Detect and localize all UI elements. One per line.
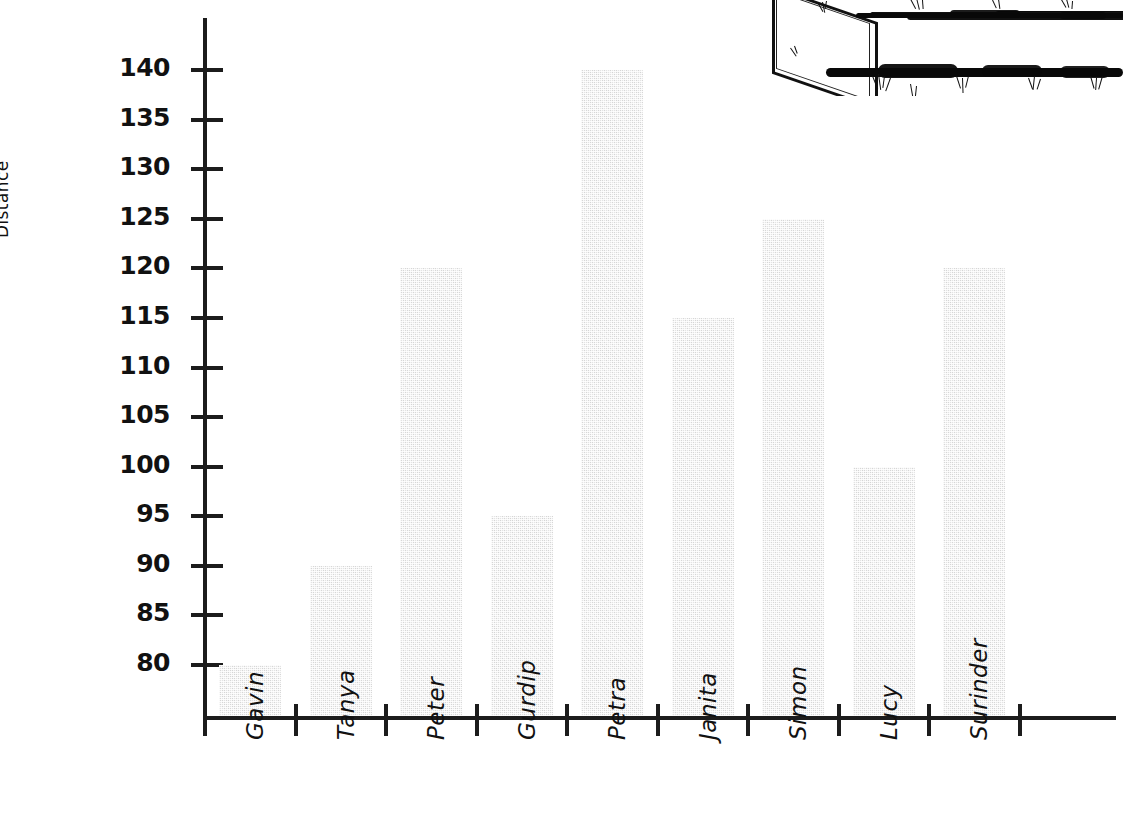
y-tick-label: 130 xyxy=(60,152,170,181)
y-tick-label: 95 xyxy=(60,499,170,528)
y-tick xyxy=(191,415,223,419)
y-tick-label: 120 xyxy=(60,251,170,280)
x-tick-label-gavin: Gavin xyxy=(242,671,268,740)
y-tick xyxy=(191,68,223,72)
y-tick xyxy=(191,514,223,518)
x-tick-label-tanya: Tanya xyxy=(333,669,359,740)
y-tick xyxy=(191,118,223,122)
y-tick xyxy=(191,266,223,270)
chart-page: Distance 8085909510010511011512012513013… xyxy=(0,0,1123,829)
x-tick-label-simon: Simon xyxy=(785,665,811,740)
y-tick xyxy=(191,663,223,667)
x-tick xyxy=(1018,704,1022,736)
y-tick xyxy=(191,613,223,617)
y-tick xyxy=(191,217,223,221)
x-tick-label-surinder: Surinder xyxy=(966,638,992,740)
bar-janita xyxy=(672,318,734,716)
bar-peter xyxy=(400,268,462,716)
x-tick xyxy=(203,704,207,736)
x-tick xyxy=(294,704,298,736)
y-axis-label: Distance xyxy=(0,160,12,238)
x-tick xyxy=(927,704,931,736)
y-tick-label: 85 xyxy=(60,598,170,627)
x-tick xyxy=(837,704,841,736)
y-tick xyxy=(191,564,223,568)
y-tick xyxy=(191,465,223,469)
x-tick xyxy=(746,704,750,736)
x-tick xyxy=(656,704,660,736)
y-tick-label: 80 xyxy=(60,648,170,677)
x-tick-label-gurdip: Gurdip xyxy=(514,660,540,740)
y-tick-label: 115 xyxy=(60,301,170,330)
y-tick-label: 90 xyxy=(60,549,170,578)
bar-chart: Distance 8085909510010511011512012513013… xyxy=(0,0,1123,829)
y-tick xyxy=(191,167,223,171)
y-tick-label: 125 xyxy=(60,202,170,231)
y-tick-label: 140 xyxy=(60,53,170,82)
x-tick-label-peter: Peter xyxy=(423,677,449,740)
y-tick-label: 105 xyxy=(60,400,170,429)
y-tick-label: 100 xyxy=(60,450,170,479)
bar-lucy xyxy=(853,467,915,716)
x-tick xyxy=(475,704,479,736)
y-tick xyxy=(191,366,223,370)
bar-simon xyxy=(762,219,824,716)
x-tick-label-petra: Petra xyxy=(604,677,630,740)
x-tick-label-lucy: Lucy xyxy=(876,684,902,740)
x-tick xyxy=(565,704,569,736)
bar-petra xyxy=(581,70,643,716)
y-tick xyxy=(191,316,223,320)
x-tick-label-janita: Janita xyxy=(695,672,721,740)
y-tick-label: 110 xyxy=(60,351,170,380)
y-tick-label: 135 xyxy=(60,103,170,132)
x-tick xyxy=(384,704,388,736)
